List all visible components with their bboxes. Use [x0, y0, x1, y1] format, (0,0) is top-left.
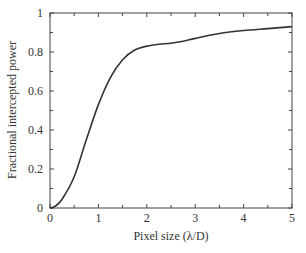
x-tick-label: 5: [289, 211, 295, 225]
chart: 012345 00.20.40.60.81 Pixel size (λ/D) F…: [0, 0, 306, 253]
y-tick-label: 1: [37, 6, 43, 20]
y-tick-label: 0.4: [28, 123, 43, 137]
series-line: [50, 27, 292, 208]
y-tick-label: 0.8: [28, 45, 43, 59]
x-axis-label: Pixel size (λ/D): [133, 229, 208, 243]
x-tick-label: 4: [241, 211, 247, 225]
data-series: [50, 27, 292, 208]
plot-frame: [50, 13, 292, 208]
x-axis-ticks: 012345: [47, 13, 295, 225]
x-tick-label: 3: [192, 211, 198, 225]
x-tick-label: 0: [47, 211, 53, 225]
y-axis-ticks: 00.20.40.60.81: [28, 6, 292, 215]
x-tick-label: 1: [95, 211, 101, 225]
y-tick-label: 0.2: [28, 162, 43, 176]
y-axis-label: Fractional intercepted power: [5, 41, 19, 179]
y-tick-label: 0: [37, 201, 43, 215]
x-tick-label: 2: [144, 211, 150, 225]
y-tick-label: 0.6: [28, 84, 43, 98]
